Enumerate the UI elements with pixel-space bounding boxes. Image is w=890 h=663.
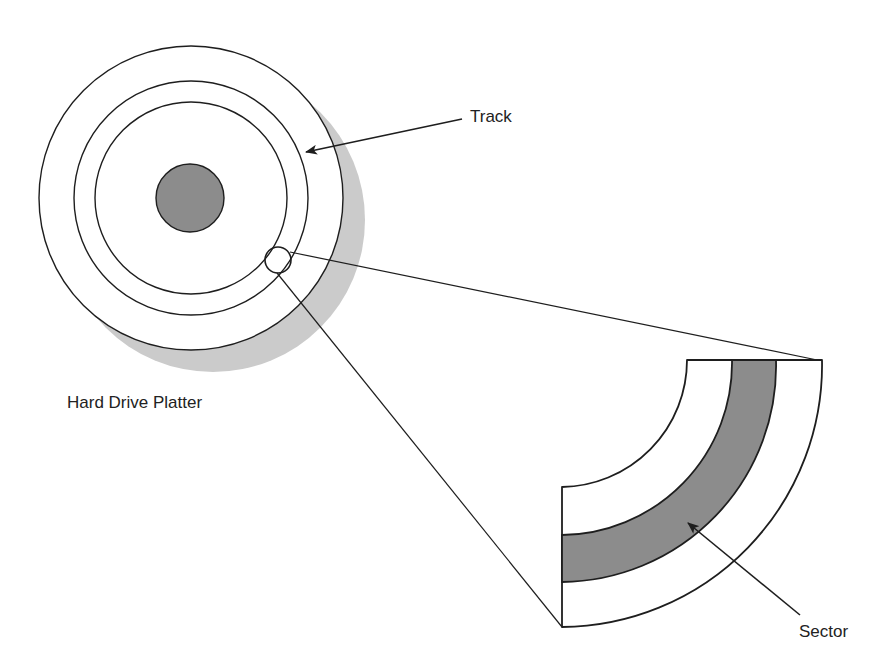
hard-drive-platter bbox=[39, 46, 343, 350]
zoom-line-upper bbox=[290, 252, 822, 361]
sector-label: Sector bbox=[799, 622, 848, 641]
platter-label: Hard Drive Platter bbox=[67, 393, 202, 412]
zoom-line-lower bbox=[277, 273, 562, 627]
track-label: Track bbox=[470, 107, 512, 126]
spindle-hub bbox=[156, 164, 224, 232]
sector-detail bbox=[562, 360, 822, 627]
platter-diagram: Track Hard Drive Platter Sector bbox=[0, 0, 890, 663]
